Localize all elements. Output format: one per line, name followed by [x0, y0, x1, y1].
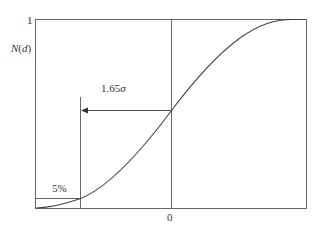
arrow-label: 1.65σ [101, 82, 126, 94]
cdf-figure: 1 N(d) 1.65σ 5% 0 [0, 0, 319, 228]
x-zero-label: 0 [167, 211, 173, 223]
y-axis-label: N(d) [10, 42, 32, 55]
y-top-label: 1 [27, 14, 33, 26]
arrow-head-icon [81, 108, 88, 114]
five-percent-label: 5% [52, 182, 67, 194]
cdf-diagram: 1 N(d) 1.65σ 5% 0 [0, 0, 319, 228]
